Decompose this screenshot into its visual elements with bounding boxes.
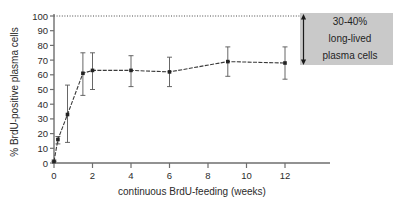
error-bars (52, 47, 288, 162)
y-tick-label: 70 (37, 55, 48, 66)
y-tick-label: 40 (37, 99, 48, 110)
x-axis-title: continuous BrdU-feeding (weeks) (118, 186, 266, 197)
y-tick-label: 60 (37, 69, 48, 80)
brdu-plasma-cell-line-chart: 100 90 80 70 60 50 40 30 20 10 0 0 2 4 (0, 0, 393, 200)
x-tick-label: 6 (167, 170, 172, 181)
figure-container: 100 90 80 70 60 50 40 30 20 10 0 0 2 4 (0, 0, 393, 200)
x-tick-label: 2 (90, 170, 95, 181)
annotation-line-2: long-lived (329, 33, 372, 44)
y-tick-label: 50 (37, 84, 48, 95)
y-tick-label: 80 (37, 40, 48, 51)
data-point (66, 113, 70, 117)
data-point (52, 160, 56, 164)
data-point (283, 61, 287, 65)
y-tick-label: 100 (32, 11, 48, 22)
y-axis-tick-labels: 100 90 80 70 60 50 40 30 20 10 0 (32, 11, 48, 169)
data-point (129, 69, 133, 73)
data-point (91, 69, 95, 73)
y-tick-label: 20 (37, 128, 48, 139)
x-axis-ticks (54, 163, 285, 168)
data-point (168, 70, 172, 74)
data-point (226, 60, 230, 64)
x-tick-label: 8 (205, 170, 210, 181)
x-tick-label: 10 (241, 170, 252, 181)
x-tick-label: 4 (128, 170, 133, 181)
y-tick-label: 0 (43, 158, 48, 169)
annotation-line-3: plasma cells (322, 50, 377, 61)
x-axis-tick-labels: 0 2 4 6 8 10 12 (51, 170, 290, 181)
y-tick-label: 30 (37, 113, 48, 124)
y-axis-title: % BrdU-positive plasma cells (9, 27, 20, 157)
data-point (81, 72, 85, 76)
x-tick-label: 12 (280, 170, 291, 181)
y-tick-label: 90 (37, 25, 48, 36)
data-point (56, 138, 60, 142)
annotation-line-1: 30-40% (333, 16, 368, 27)
y-tick-label: 10 (37, 143, 48, 154)
x-tick-label: 0 (51, 170, 56, 181)
